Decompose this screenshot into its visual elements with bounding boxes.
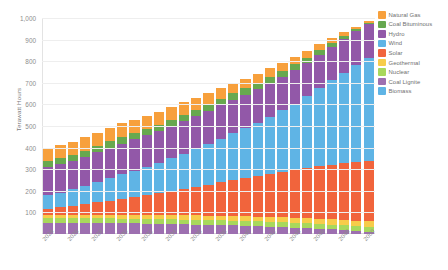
bar-segment[interactable] [142, 135, 152, 167]
bar-segment[interactable] [240, 178, 250, 216]
bar-segment[interactable] [105, 178, 115, 201]
bar-segment[interactable] [43, 148, 53, 161]
bar-segment[interactable] [203, 93, 213, 104]
bar-segment[interactable] [302, 96, 312, 168]
x-axis-tick [253, 236, 263, 270]
bar-segment[interactable] [179, 154, 189, 189]
bar-segment[interactable] [253, 74, 263, 83]
bar-segment[interactable] [228, 133, 238, 180]
bar-segment[interactable] [80, 157, 90, 186]
bar-segment[interactable] [68, 206, 78, 215]
bar-segment[interactable] [105, 128, 115, 141]
bar-segment[interactable] [105, 223, 115, 234]
bar-segment[interactable] [80, 186, 90, 205]
bar-segment[interactable] [265, 68, 275, 77]
bar-segment[interactable] [117, 174, 127, 199]
bar-segment[interactable] [364, 24, 374, 58]
bar-segment[interactable] [129, 171, 139, 197]
bar-segment[interactable] [277, 172, 287, 217]
legend-item[interactable]: Coal Lignite [378, 77, 448, 87]
bar-segment[interactable] [166, 107, 176, 120]
bar-segment[interactable] [228, 225, 238, 234]
bar-segment[interactable] [265, 83, 275, 117]
bar-segment[interactable] [92, 182, 102, 203]
bar-segment[interactable] [216, 139, 226, 183]
bar-segment[interactable] [55, 207, 65, 215]
bar-segment[interactable] [302, 51, 312, 58]
bar-segment[interactable] [80, 137, 90, 150]
bar-segment[interactable] [253, 226, 263, 234]
bar-segment[interactable] [216, 105, 226, 138]
bar-segment[interactable] [129, 133, 139, 140]
bar-segment[interactable] [129, 139, 139, 170]
bar-segment[interactable] [154, 112, 164, 125]
legend-item[interactable]: Geothermal [378, 58, 448, 68]
bar-segment[interactable] [80, 223, 90, 234]
bar-segment[interactable] [314, 88, 324, 166]
bar-segment[interactable] [166, 126, 176, 158]
bar-segment[interactable] [351, 231, 361, 234]
bar-segment[interactable] [92, 133, 102, 146]
bar-segment[interactable] [92, 152, 102, 181]
bar-segment[interactable] [154, 163, 164, 193]
bar-segment[interactable] [327, 165, 337, 220]
bar-segment[interactable] [203, 185, 213, 216]
bar-segment[interactable] [364, 58, 374, 161]
x-axis-tick [277, 236, 287, 270]
bar-segment[interactable] [68, 161, 78, 189]
bar-segment[interactable] [339, 39, 349, 73]
bar-segment[interactable] [216, 88, 226, 99]
x-axis-tick: 2048 [339, 236, 349, 270]
legend-item[interactable]: Coal Bituminous [378, 20, 448, 30]
bar-segment[interactable] [339, 73, 349, 163]
bar-segment[interactable] [203, 111, 213, 144]
bar-segment[interactable] [290, 70, 300, 104]
bar-segment[interactable] [265, 174, 275, 217]
bar-segment[interactable] [228, 83, 238, 94]
bar-segment[interactable] [277, 63, 287, 71]
bar-segment[interactable] [43, 195, 53, 208]
bar-segment[interactable] [302, 63, 312, 97]
legend-item[interactable]: Solar [378, 48, 448, 58]
bar-segment[interactable] [142, 129, 152, 136]
bar-segment[interactable] [203, 144, 213, 184]
bar-segment[interactable] [253, 89, 263, 123]
x-axis-tick: 2036 [191, 236, 201, 270]
legend-color-swatch [378, 59, 386, 67]
legend-item[interactable]: Biomass [378, 86, 448, 96]
bar-segment[interactable] [166, 158, 176, 190]
legend-item[interactable]: Hydro [378, 29, 448, 39]
bar-segment[interactable] [277, 227, 287, 234]
bar-segment[interactable] [203, 225, 213, 234]
bar-segment[interactable] [179, 224, 189, 234]
bar-segment[interactable] [191, 116, 201, 149]
bar-segment[interactable] [253, 123, 263, 176]
bar-segment[interactable] [302, 228, 312, 234]
bar-segment[interactable] [154, 224, 164, 234]
bar-segment[interactable] [55, 223, 65, 234]
legend-item[interactable]: Wind [378, 39, 448, 49]
bar-segment[interactable] [129, 223, 139, 234]
y-axis-tick-label: 900 [0, 36, 40, 43]
bar-segment[interactable] [228, 180, 238, 216]
bar-segment[interactable] [105, 148, 115, 178]
bar-segment[interactable] [240, 95, 250, 129]
bar-segment[interactable] [290, 170, 300, 218]
bar-segment[interactable] [216, 182, 226, 215]
bar-segment[interactable] [290, 104, 300, 170]
bar-segment[interactable] [191, 149, 201, 187]
bar-segment[interactable] [117, 137, 127, 144]
bar-segment[interactable] [55, 193, 65, 208]
bar-segment[interactable] [253, 176, 263, 217]
legend-item[interactable]: Natural Gas [378, 10, 448, 20]
bar-segment[interactable] [277, 77, 287, 111]
bar-segment[interactable] [240, 128, 250, 178]
bar-segment[interactable] [302, 168, 312, 218]
bar-segment[interactable] [327, 47, 337, 81]
bar-segment[interactable] [277, 110, 287, 172]
bar-segment[interactable] [327, 229, 337, 234]
bar-segment[interactable] [314, 166, 324, 218]
bar-segment[interactable] [327, 80, 337, 164]
legend-item[interactable]: Nuclear [378, 67, 448, 77]
gridline [42, 191, 375, 192]
